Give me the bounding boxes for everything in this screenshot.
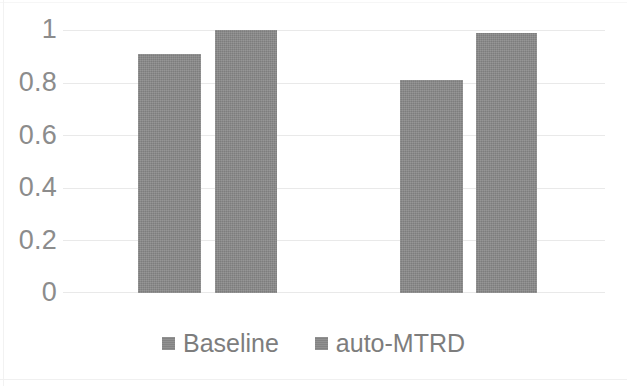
legend-item-auto-mtrd: auto-MTRD [315,330,465,357]
plot-area [63,30,605,293]
gridline-1.0 [63,30,605,31]
y-tick-label: 0 [3,279,57,306]
legend-swatch-icon [315,337,328,350]
y-tick-label: 0.8 [3,69,57,96]
legend-label: auto-MTRD [336,330,465,357]
y-tick-label: 0.2 [3,227,57,254]
legend: Baseline auto-MTRD [0,330,627,357]
bar-baseline-group1 [138,54,201,293]
bar-chart: 1 0.8 0.6 0.4 0.2 0 Baseline auto-MTRD [0,0,627,386]
y-axis-labels: 1 0.8 0.6 0.4 0.2 0 [0,30,57,293]
chart-bottom-border [0,379,627,380]
chart-top-border [0,2,627,3]
y-tick-label: 0.4 [3,174,57,201]
bar-automtrd-group2 [476,33,537,293]
bar-automtrd-group1 [215,30,277,293]
legend-item-baseline: Baseline [162,330,279,357]
y-tick-label: 0.6 [3,122,57,149]
bar-baseline-group2 [400,80,463,293]
legend-swatch-icon [162,337,175,350]
y-tick-label: 1 [3,16,57,43]
legend-label: Baseline [183,330,279,357]
